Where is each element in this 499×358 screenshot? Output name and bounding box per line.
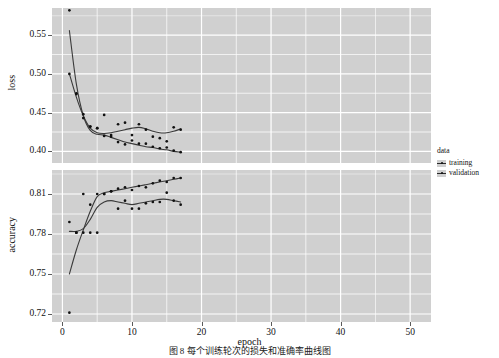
x-tick-mark [410, 322, 411, 326]
loss-ytick-label: 0.50 [10, 68, 46, 78]
legend: data training validation [437, 146, 479, 178]
accuracy-ytick-label: 0.78 [10, 228, 46, 238]
xtick-label: 20 [182, 327, 222, 337]
xtick-label: 50 [390, 327, 430, 337]
y-tick-mark [48, 35, 52, 36]
accuracy-plot-svg [52, 170, 431, 322]
y-tick-mark [48, 314, 52, 315]
legend-title: data [437, 146, 479, 156]
legend-item-training[interactable]: training [437, 158, 479, 168]
legend-key-icon [437, 170, 446, 177]
legend-label-validation: validation [449, 168, 479, 178]
loss-ytick-label: 0.40 [10, 145, 46, 155]
legend-label-training: training [449, 158, 472, 168]
y-tick-mark [48, 194, 52, 195]
loss-panel [52, 8, 431, 163]
figure-root: loss accuracy epoch data training valida… [0, 0, 499, 358]
y-tick-mark [48, 151, 52, 152]
loss-axis-title: loss [4, 78, 18, 92]
xtick-label: 30 [251, 327, 291, 337]
accuracy-ytick-label: 0.75 [10, 268, 46, 278]
accuracy-ytick-label: 0.81 [10, 188, 46, 198]
loss-axis-title-text: loss [6, 77, 17, 91]
accuracy-panel [52, 170, 431, 322]
y-tick-mark [48, 234, 52, 235]
accuracy-axis-title-text: accuracy [6, 239, 17, 253]
figure-caption: 图 8 每个训练轮次的损失和准确率曲线图 [0, 344, 499, 357]
legend-key-icon [437, 160, 446, 167]
xtick-label: 10 [112, 327, 152, 337]
accuracy-axis-title: accuracy [4, 240, 18, 254]
accuracy-ytick-label: 0.72 [10, 308, 46, 318]
x-tick-mark [341, 322, 342, 326]
caption-clip: 图 8 每个训练轮次的损失和准确率曲线图 [0, 344, 499, 358]
y-tick-mark [48, 74, 52, 75]
y-tick-mark [48, 113, 52, 114]
xtick-label: 40 [321, 327, 361, 337]
x-tick-mark [271, 322, 272, 326]
x-tick-mark [202, 322, 203, 326]
y-tick-mark [48, 274, 52, 275]
legend-item-validation[interactable]: validation [437, 168, 479, 178]
loss-ytick-label: 0.55 [10, 29, 46, 39]
x-tick-mark [132, 322, 133, 326]
loss-plot-svg [52, 8, 431, 163]
xtick-label: 0 [42, 327, 82, 337]
x-tick-mark [62, 322, 63, 326]
loss-ytick-label: 0.45 [10, 107, 46, 117]
